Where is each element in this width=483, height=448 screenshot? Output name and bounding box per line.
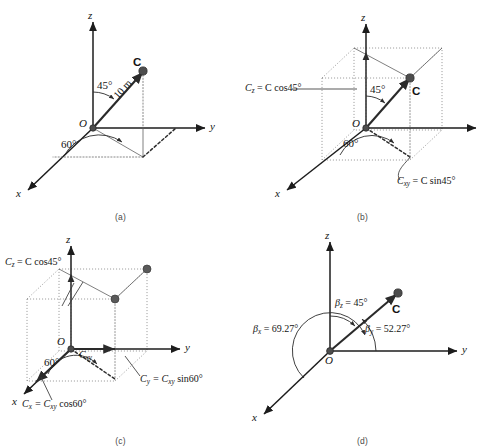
beta-z-subscript: z	[340, 302, 343, 310]
cz-subscript: z	[252, 87, 255, 95]
panel-d-caption: (d)	[242, 436, 483, 446]
vector-c-label: C	[133, 57, 141, 69]
origin-dot	[90, 125, 96, 131]
vector-decomposition-figure: z y x O C 45° 60° 10 m (a)	[0, 0, 483, 448]
point-c-dot	[394, 289, 402, 297]
cz-subscript: z	[12, 261, 15, 269]
beta-x-arc	[292, 313, 365, 378]
origin-label: O	[325, 355, 333, 366]
panel-d-drawing	[242, 224, 483, 448]
top-diagonal-left	[59, 269, 115, 299]
angle-45-label: 45°	[370, 84, 385, 95]
cxy-equation: Cxy = C sin45°	[397, 176, 456, 188]
cy-tail: sin60°	[177, 373, 203, 384]
top-diagonal-right	[410, 48, 442, 78]
z-axis-label: z	[66, 234, 70, 245]
panel-c: z y x O 60° Cz = C cos45° Cxy Cx = Cxy c…	[0, 224, 241, 448]
y-axis-label: y	[210, 121, 215, 132]
cz-equation: Cz = C cos45°	[245, 83, 302, 95]
cz-symbol: C	[5, 256, 12, 267]
panel-c-caption: (c)	[0, 436, 241, 446]
cz-symbol: C	[245, 82, 252, 93]
cz-leader-line-2	[62, 283, 74, 306]
cxy-subscript: xy	[404, 180, 410, 188]
point-c-dot	[406, 74, 414, 82]
beta-y-subscript: y	[370, 328, 373, 336]
angle-45-arc	[366, 96, 385, 103]
origin-label: O	[352, 118, 360, 129]
cy-leader-line	[125, 356, 140, 376]
cxy-label: Cxy	[79, 350, 92, 362]
z-axis-label: z	[88, 10, 92, 21]
angle-60-label: 60°	[61, 139, 76, 150]
cy-subscript: y	[147, 378, 150, 386]
vector-c-label: C	[412, 86, 420, 98]
cxy-expression: = C sin45°	[413, 175, 456, 186]
cx-tail: cos60°	[59, 398, 86, 409]
beta-x-subscript: x	[258, 328, 261, 336]
beta-x-value: = 69.27°	[264, 323, 299, 334]
cxy-subscript: xy	[86, 354, 92, 362]
x-axis	[264, 351, 330, 414]
panel-b-caption: (b)	[242, 212, 483, 222]
y-axis-label: y	[462, 344, 467, 355]
origin-label: O	[79, 118, 87, 129]
z-axis-label: z	[361, 12, 365, 23]
cx-leader-line	[41, 377, 52, 400]
cz-expression: = C cos45°	[257, 82, 302, 93]
angle-60-label: 60°	[44, 357, 59, 368]
origin-dot	[68, 346, 74, 352]
cxy-projection	[366, 128, 410, 157]
panel-a: z y x O C 45° 60° 10 m (a)	[0, 0, 241, 224]
x-axis-label: x	[252, 412, 257, 423]
angle-60-label: 60°	[343, 138, 358, 149]
x-axis-label: x	[16, 188, 21, 199]
top-diagonal-left	[354, 48, 410, 78]
angle-45-label: 45°	[97, 80, 112, 91]
xy-projection-line	[93, 128, 143, 157]
cy-equation: Cy = Cxy sin60°	[140, 374, 203, 386]
y-axis-label: y	[185, 342, 190, 353]
panel-a-drawing	[0, 0, 241, 224]
x-axis-label: x	[275, 188, 280, 199]
beta-y-value: = 52.27°	[376, 323, 411, 334]
cx-symbol: C	[22, 398, 29, 409]
cy-subscript-2: xy	[168, 378, 174, 386]
cx-subscript: x	[29, 403, 32, 411]
vector-c-label: C	[392, 304, 400, 316]
origin-dot	[363, 125, 369, 131]
top-diagonal-right	[115, 269, 147, 299]
cz-equation: Cz = C cos45°	[5, 257, 62, 269]
panel-a-caption: (a)	[0, 212, 241, 222]
cy-symbol: C	[140, 373, 147, 384]
point-c-dot	[143, 265, 151, 273]
cx-subscript-2: xy	[50, 403, 56, 411]
x-axis-label: x	[12, 396, 17, 407]
beta-x-equation: βx = 69.27°	[253, 324, 298, 336]
beta-z-value: = 45°	[345, 297, 367, 308]
cz-arrowhead	[68, 274, 75, 282]
cz-expression: = C cos45°	[17, 256, 62, 267]
beta-z-equation: βz = 45°	[335, 298, 367, 310]
cxy-projection	[71, 349, 115, 379]
cxy-symbol: C	[397, 175, 404, 186]
beta-z-arc	[330, 316, 355, 326]
base-dashed-y	[143, 128, 176, 157]
cxy-symbol: C	[79, 349, 86, 360]
z-axis-label: z	[325, 230, 329, 241]
panel-b: z x O C 45° 60° Cz = C cos45° Cxy = C si…	[242, 0, 483, 224]
cx-rhs: = C	[34, 398, 50, 409]
panel-d: z y x O C βz = 45° βx = 69.27° βy = 52.2…	[242, 224, 483, 448]
beta-y-equation: βy = 52.27°	[365, 324, 410, 336]
cy-rhs: = C	[152, 373, 168, 384]
point-c-mid-dot	[111, 295, 119, 303]
origin-label: O	[57, 336, 65, 347]
cx-equation: Cx = Cxy cos60°	[22, 399, 87, 411]
